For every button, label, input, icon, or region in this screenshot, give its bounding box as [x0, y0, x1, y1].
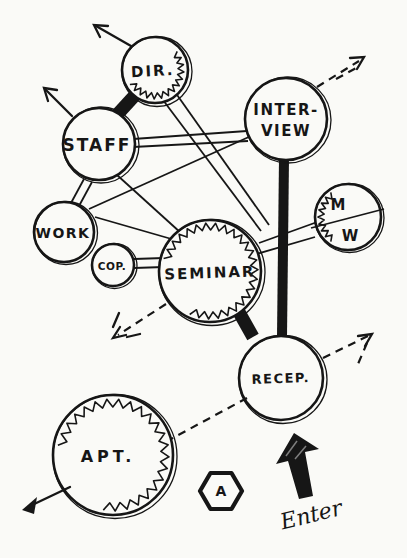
zone-marker: A: [200, 473, 242, 509]
node-interview-label-line2: VIEW: [261, 122, 311, 140]
recep-east-dashed-shaft: [323, 336, 368, 358]
seminar-sw-extra-dash-2: [127, 334, 140, 337]
node-work: WORK: [34, 202, 98, 265]
seminar-sw-arrow-head: [113, 327, 126, 338]
staff-exit-arrow-shaft: [46, 90, 72, 116]
node-dir-label: DIR.: [131, 61, 175, 81]
apt-exit-arrow-shaft: [30, 487, 70, 506]
node-recep-label: RECEP.: [251, 370, 310, 387]
seminar-sw-extra-dash-1: [113, 313, 119, 327]
node-staff: STAFF: [63, 107, 139, 183]
bubble-diagram: DIR. STAFF INTER- VIEW WORK COP. SEMINAR…: [0, 0, 407, 558]
enter-label: Enter: [277, 495, 346, 535]
node-dir: DIR.: [122, 37, 192, 107]
entry: Enter: [276, 433, 346, 535]
heavy-link-interview-recep: [282, 158, 284, 337]
enter-arrow: [276, 433, 319, 499]
node-mw-label-women: W: [342, 227, 359, 245]
interview-ne-dashed-shaft: [317, 61, 359, 87]
node-interview: INTER- VIEW: [245, 77, 331, 163]
node-recep: RECEP.: [239, 336, 327, 424]
node-apt-label: APT.: [81, 447, 136, 466]
node-seminar-label: SEMINAR: [164, 262, 256, 283]
node-apt: APT.: [53, 395, 177, 519]
node-work-label: WORK: [36, 225, 91, 241]
zone-marker-label: A: [216, 483, 227, 499]
link-staff-seminar: [117, 175, 181, 233]
link-work-seminar: [95, 217, 175, 240]
node-mw: M W: [311, 184, 384, 253]
recep-apt-dashed-link: [171, 398, 247, 439]
node-cop-label: COP.: [98, 260, 126, 272]
dir-exit-arrow-shaft: [96, 26, 131, 46]
node-interview-label-line1: INTER-: [253, 101, 318, 119]
apt-exit-arrow-head: [22, 497, 37, 514]
recep-east-extra-dash: [358, 343, 367, 364]
sketch-sheet: DIR. STAFF INTER- VIEW WORK COP. SEMINAR…: [0, 0, 407, 558]
node-staff-label: STAFF: [63, 135, 132, 155]
node-mw-label-men: M: [331, 196, 346, 214]
recep-east-arrow-head: [358, 334, 372, 346]
seminar-sw-dashed-shaft: [118, 304, 166, 335]
node-seminar: SEMINAR: [159, 220, 265, 326]
node-cop: COP.: [92, 244, 137, 289]
